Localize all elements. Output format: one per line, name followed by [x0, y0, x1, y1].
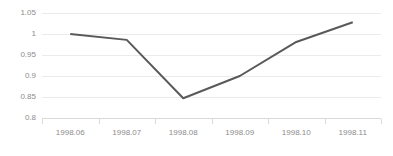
data-series-line — [70, 22, 353, 98]
x-axis-tick-label: 1998.09 — [225, 128, 254, 137]
y-axis-tick-label: 0.9 — [25, 71, 37, 80]
y-axis-tick-labels: 1.0510.950.90.850.8 — [20, 8, 36, 122]
x-axis-tick-label: 1998.07 — [112, 128, 141, 137]
x-axis-tick-labels: 1998.061998.071998.081998.091998.101998.… — [56, 128, 368, 137]
y-axis-tick-label: 0.8 — [25, 113, 37, 122]
y-axis-tick-label: 1 — [32, 29, 37, 38]
x-axis-tick-label: 1998.06 — [56, 128, 85, 137]
line-chart: 1.0510.950.90.850.8 1998.061998.071998.0… — [0, 0, 393, 156]
series-polyline — [70, 22, 353, 98]
y-axis-tick-label: 0.95 — [20, 50, 36, 59]
chart-canvas: 1.0510.950.90.850.8 1998.061998.071998.0… — [0, 0, 393, 156]
x-axis-tick-label: 1998.11 — [339, 128, 368, 137]
x-axis-tick-label: 1998.10 — [282, 128, 311, 137]
y-axis-tick-label: 0.85 — [20, 92, 36, 101]
x-axis-tick-label: 1998.08 — [169, 128, 198, 137]
y-axis-tick-label: 1.05 — [20, 8, 36, 17]
x-axis — [43, 119, 382, 124]
